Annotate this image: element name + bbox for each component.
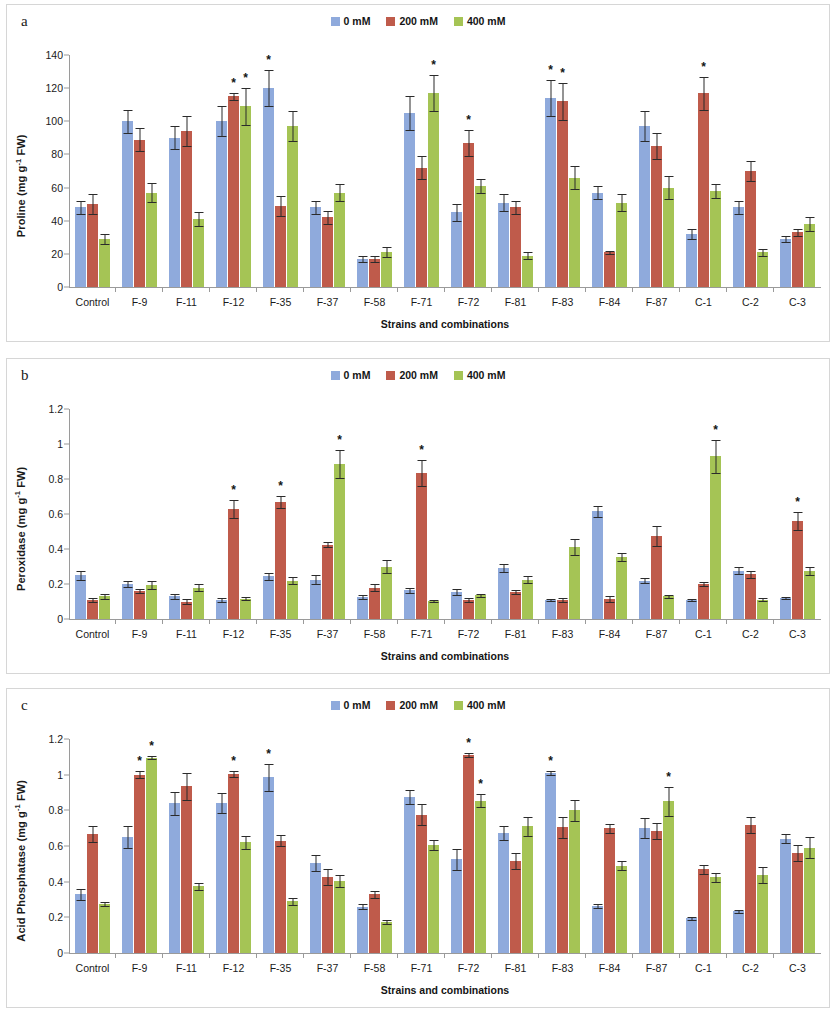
error-bar-cap [229,777,238,778]
chart-panel-b: b0 mM200 mM400 mMPeroxidase (mg g-1 FW)0… [6,358,830,674]
error-bar [292,898,293,905]
error-bar-cap [652,823,661,824]
bar-group: * [398,409,445,619]
y-axis-ticks: 00.20.40.60.811.2 [35,721,69,1001]
bar-group: * [398,55,445,287]
x-tick-mark [209,953,210,958]
y-tick-label: 0.2 [48,911,63,923]
bar [193,219,204,287]
bar: * [475,801,486,953]
error-bar-cap [711,440,720,441]
error-bar [315,855,316,871]
y-tick-label: 1.2 [48,403,63,415]
bar [287,901,298,953]
error-bar-cap [570,166,579,167]
x-tick-mark [303,287,304,292]
bar [616,203,627,288]
error-bar-cap [417,156,426,157]
bar-group: * [257,739,304,953]
x-tick-label: F-58 [351,296,398,308]
error-bar-cap [605,254,614,255]
error-bar-cap [758,883,767,884]
x-tick-label: F-81 [492,296,539,308]
error-bar-cap [382,924,391,925]
bar-group: ** [116,739,163,953]
error-bar [80,889,81,900]
bar [780,839,791,953]
error-bar-cap [617,211,626,212]
error-bar-cap [464,156,473,157]
error-bar [339,450,340,478]
x-tick-mark [726,619,727,624]
bar [804,848,815,953]
x-tick-label: F-11 [163,296,210,308]
legend-swatch-icon [386,371,395,380]
bar [216,803,227,953]
legend-label: 200 mM [399,699,438,711]
error-bar-cap [170,815,179,816]
error-bar-cap [640,111,649,112]
error-bar-cap [805,231,814,232]
error-bar-cap [311,575,320,576]
error-bar-cap [276,846,285,847]
error-bar-cap [217,602,226,603]
error-bar [127,110,128,133]
x-tick-mark [773,619,774,624]
error-bar-cap [746,571,755,572]
bar-group [727,55,774,287]
bar [757,875,768,953]
error-bar-cap [335,184,344,185]
significance-marker: * [666,773,671,781]
error-bar-cap [593,186,602,187]
x-tick-label: F-71 [398,296,445,308]
error-bar-cap [276,835,285,836]
error-bar-cap [511,869,520,870]
error-bar-cap [499,194,508,195]
bar [639,581,650,620]
error-bar-cap [147,581,156,582]
y-tick-label: 0 [57,281,63,293]
error-bar [456,849,457,870]
significance-marker: * [278,482,283,490]
error-bar-cap [781,236,790,237]
x-tick-label: F-35 [257,628,304,640]
error-bar [151,183,152,203]
error-bar-cap [370,262,379,263]
error-bar-cap [664,595,673,596]
bar [698,584,709,619]
error-bar-cap [664,787,673,788]
bar: * [228,96,239,287]
error-bar-cap [734,567,743,568]
bar [522,256,533,287]
error-bar-cap [382,247,391,248]
error-bar [386,247,387,257]
bar [557,600,568,619]
x-tick-mark [350,953,351,958]
error-bar-cap [558,602,567,603]
error-bar-cap [182,116,191,117]
error-bar-cap [452,221,461,222]
y-axis-title: Proline (mg g-1 FW) [9,35,31,337]
significance-marker: * [231,79,236,87]
y-tick-label: 0.8 [48,473,63,485]
significance-marker: * [560,69,565,77]
chart-legend: 0 mM200 mM400 mM [7,15,829,27]
error-bar [280,496,281,508]
bar-group [163,55,210,287]
legend-entry: 400 mM [454,15,506,27]
bar [416,168,427,287]
error-bar-cap [687,229,696,230]
error-bar [409,96,410,129]
error-bar-cap [593,517,602,518]
error-bar-cap [429,111,438,112]
bar [780,598,791,619]
bar [686,918,697,953]
significance-marker: * [419,446,424,454]
x-tick-mark [491,953,492,958]
bar-group [69,55,116,287]
error-bar-cap [617,194,626,195]
legend-label: 400 mM [467,699,506,711]
error-bar [785,834,786,843]
chart-legend: 0 mM200 mM400 mM [7,699,829,711]
error-bar [503,826,504,840]
